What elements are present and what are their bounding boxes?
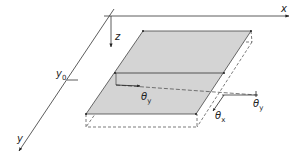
y0-label: y0: [55, 68, 66, 82]
plate-top-face: [85, 30, 252, 115]
theta-y-right-label: θy: [253, 98, 263, 112]
z-axis-label: z: [114, 31, 121, 42]
plate-diagram: x z y y0 θy: [0, 0, 293, 161]
y-axis-label: y: [16, 133, 24, 144]
theta-x-label: θx: [215, 110, 225, 124]
y-axis: y y0: [16, 9, 114, 151]
theta-x-arrow: [213, 95, 224, 111]
z-axis: z: [111, 16, 121, 47]
x-axis: x: [104, 3, 289, 16]
x-axis-label: x: [280, 3, 287, 14]
